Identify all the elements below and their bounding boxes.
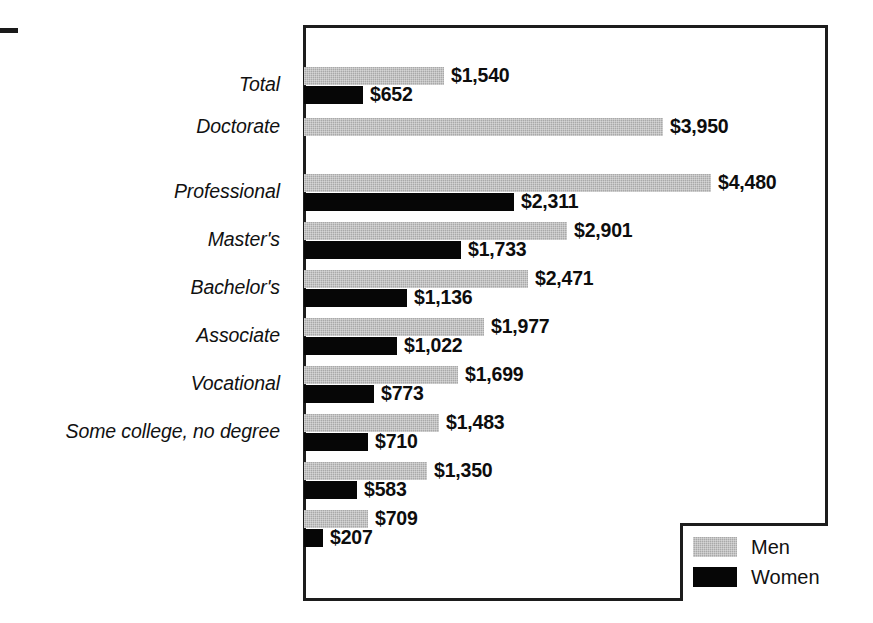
bar-group: $2,471$1,136 xyxy=(304,270,827,307)
bar-men xyxy=(304,366,458,384)
bar-value-men: $709 xyxy=(375,509,418,527)
category-label-column: TotalDoctorateProfessionalMaster'sBachel… xyxy=(0,25,292,598)
bar-value-men: $3,950 xyxy=(670,117,728,135)
bar-value-women: $1,022 xyxy=(404,336,462,354)
bar-women xyxy=(304,385,374,403)
bar-value-men: $1,540 xyxy=(451,66,509,84)
bar-group: $1,483$710 xyxy=(304,414,827,451)
bar-value-women: $1,733 xyxy=(468,240,526,258)
category-label: Professional xyxy=(0,182,292,202)
bar-women xyxy=(304,433,368,451)
bar-women xyxy=(304,86,363,104)
bar-group: $4,480$2,311 xyxy=(304,174,827,211)
bar-men xyxy=(304,118,663,136)
legend-label: Men xyxy=(751,534,790,560)
bar-women xyxy=(304,337,397,355)
bar-value-women: $652 xyxy=(370,85,413,103)
bar-value-men: $1,350 xyxy=(434,461,492,479)
bar-men xyxy=(304,510,368,528)
bar-chart-figure: TotalDoctorateProfessionalMaster'sBachel… xyxy=(0,0,873,623)
category-label: Master's xyxy=(0,230,292,250)
bar-group: $1,977$1,022 xyxy=(304,318,827,355)
bar-value-men: $4,480 xyxy=(718,173,776,191)
bar-men xyxy=(304,222,567,240)
bar-men xyxy=(304,270,528,288)
category-label: Some college, no degree xyxy=(0,422,292,442)
bar-value-men: $1,977 xyxy=(491,317,549,335)
bar-value-men: $1,699 xyxy=(465,365,523,383)
chart-legend: MenWomen xyxy=(681,524,827,598)
bar-value-women: $207 xyxy=(330,528,373,546)
plot-frame-bottom xyxy=(303,598,683,601)
bar-women xyxy=(304,193,514,211)
bar-women xyxy=(304,529,323,547)
bar-value-men: $2,901 xyxy=(574,221,632,239)
bar-value-women: $1,136 xyxy=(414,288,472,306)
category-label: Total xyxy=(0,75,292,95)
bar-women xyxy=(304,289,407,307)
legend-swatch-men xyxy=(693,537,737,557)
legend-swatch-women xyxy=(693,567,737,587)
legend-label: Women xyxy=(751,564,820,590)
bar-group: $2,901$1,733 xyxy=(304,222,827,259)
category-label: Associate xyxy=(0,326,292,346)
bar-value-women: $2,311 xyxy=(521,192,578,210)
bar-women xyxy=(304,481,357,499)
bar-men xyxy=(304,174,711,192)
category-label: Doctorate xyxy=(0,117,292,137)
bar-women xyxy=(304,241,461,259)
bar-value-women: $583 xyxy=(364,480,407,498)
bar-value-men: $2,471 xyxy=(535,269,593,287)
plot-area: $1,540$652$3,950$4,480$2,311$2,901$1,733… xyxy=(304,25,827,598)
bar-men xyxy=(304,67,444,85)
bar-value-men: $1,483 xyxy=(446,413,504,431)
category-label: Bachelor's xyxy=(0,278,292,298)
category-label: Vocational xyxy=(0,374,292,394)
bar-value-women: $773 xyxy=(381,384,424,402)
bar-value-women: $710 xyxy=(375,432,418,450)
bar-men xyxy=(304,414,439,432)
bar-men xyxy=(304,318,484,336)
bar-men xyxy=(304,462,427,480)
bar-group: $1,350$583 xyxy=(304,462,827,499)
bar-group: $1,699$773 xyxy=(304,366,827,403)
bar-group: $1,540$652 xyxy=(304,67,827,104)
bar-group: $3,950 xyxy=(304,118,827,136)
